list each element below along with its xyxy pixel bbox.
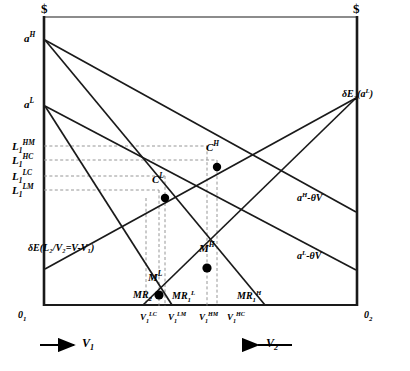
point-M-low [154,290,163,299]
label-L1-LM: L1LM [12,183,34,198]
dashed-guides [44,146,217,306]
right-dollar-symbol: $ [353,2,360,15]
label-MR1-H: MR1H [237,290,261,304]
label-M-high: MH [199,241,215,254]
label-dE2-aL: δE2(aL) [342,88,373,102]
label-MR1-L: MR1L [172,290,195,304]
label-v1-direction: V1 [82,337,94,353]
box-frame [44,16,357,306]
label-v2-direction: V2 [266,337,278,353]
label-C-high: CH [206,140,219,153]
left-dollar-symbol: $ [41,2,48,15]
line-aH-thetaV [45,40,356,212]
point-C-high [213,163,221,171]
label-a-low: aL [24,97,34,110]
origin-right-label: 02 [364,310,372,323]
label-a-high: aH [24,31,35,44]
label-V1-HM: V1HM [199,311,218,324]
point-C-low [161,194,169,202]
point-M-high [202,263,211,272]
label-L1-HC: L1HC [12,153,33,168]
label-V1-LC: V1LC [140,311,157,324]
label-dE-L2V2: δE(L₂/V₂=V-V₁) [28,243,94,253]
label-aH-thetaV: aH-θV [297,192,323,203]
label-V1-LM: V1LM [168,311,186,324]
line-MR2 [143,98,356,305]
label-M-low: ML [148,270,162,283]
schedule-lines [45,40,356,305]
label-aL-thetaV: aL-θV [297,250,321,261]
label-V1-HC: V1HC [227,311,245,324]
origin-left-label: 01 [18,310,26,323]
label-MR2: MR2 [133,290,152,303]
label-C-low: CL [152,172,164,185]
economics-box-diagram: $ $ aH aL L1HM L1HC L1LC L1LM CH CL MH M… [0,0,410,371]
